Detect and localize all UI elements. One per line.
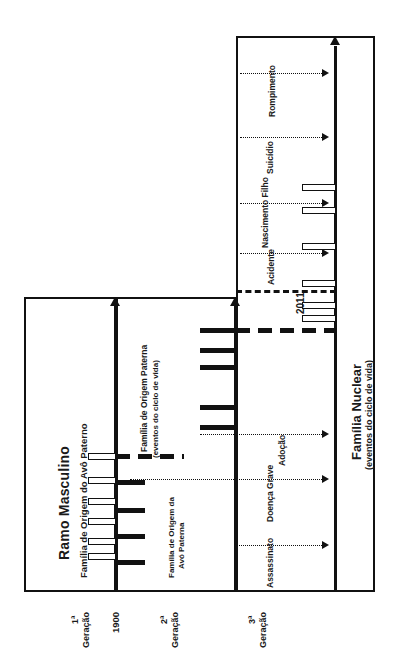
event-tick — [302, 207, 336, 214]
event-tick — [200, 328, 236, 333]
section-title-familia-origem-avo-paterno: Família de Origem do Avô Paterno — [78, 424, 89, 579]
section-title-familia-nuclear: Família Nuclear — [349, 364, 364, 460]
event-tick — [88, 498, 116, 505]
event-tick-banded — [116, 454, 184, 459]
event-arrow-line — [236, 545, 322, 546]
section-sub-familia-nuclear: (eventos do ciclo de vida) — [364, 360, 374, 470]
year-marker-line-2011 — [236, 290, 336, 293]
event-arrow-line — [200, 434, 322, 435]
timeline-spine-1900 — [114, 305, 117, 592]
event-tick — [116, 534, 145, 539]
event-tick — [116, 480, 145, 485]
event-arrow-head — [322, 541, 329, 549]
event-tick — [302, 280, 336, 287]
event-label-assassinato: Assassinato — [265, 538, 275, 588]
event-tick — [88, 538, 116, 545]
axis-label-gen2-line1: 2ª — [159, 616, 169, 624]
event-arrow-head — [322, 133, 329, 141]
event-arrow-line — [130, 479, 322, 480]
event-arrow-line — [240, 253, 322, 254]
event-tick — [200, 348, 236, 353]
event-tick — [302, 302, 336, 309]
event-tick — [88, 553, 116, 560]
event-arrow-line — [240, 203, 322, 204]
section-title-familia-origem-paterna: Família de Origem Paterna — [139, 345, 149, 452]
event-label-rompimento: Rompimento — [267, 65, 277, 117]
event-tick — [88, 518, 116, 525]
section-frame-familia-origem-paterna — [116, 297, 236, 592]
event-arrow-line — [240, 137, 322, 138]
event-arrow-head — [322, 69, 329, 77]
timeline-arrow-1900 — [110, 297, 120, 306]
event-label-doenca-grave: Doença Grave — [265, 465, 275, 522]
axis-label-gen2-line2: Geração — [170, 612, 180, 648]
event-label-suicidio: Suicídio — [265, 141, 275, 174]
axis-label-gen3-line1: 3ª — [247, 616, 257, 624]
axis-label-1900: 1900 — [110, 612, 121, 633]
event-tick — [200, 405, 236, 410]
event-arrow-head — [322, 475, 329, 483]
section-title-ramo-masculino: Ramo Masculino — [56, 446, 72, 560]
event-tick — [116, 560, 145, 565]
event-tick — [302, 243, 336, 250]
axis-label-gen3-line2: Geração — [258, 612, 268, 648]
axis-label-gen1-line1: 1ª — [70, 616, 80, 624]
event-label-nascimento-filho-line1: Nascimento Filho — [260, 177, 270, 248]
event-tick — [88, 477, 116, 484]
event-tick — [200, 365, 236, 370]
section-sub-familia-origem-avo-paterna: Avó Paterna — [177, 523, 186, 569]
event-tick — [116, 508, 145, 513]
event-tick — [302, 184, 336, 191]
event-label-adocao: Adoção — [277, 435, 287, 466]
section-frame-familia-nuclear — [236, 36, 375, 592]
timeline-arrow-gen2 — [230, 297, 240, 306]
event-label-acidente: Acidente — [266, 249, 276, 285]
event-arrow-head — [322, 249, 329, 257]
section-sub-familia-origem-paterna: (eventos do ciclo de vida) — [151, 360, 160, 458]
event-tick-banded — [236, 328, 336, 333]
event-arrow-head — [322, 430, 329, 438]
timeline-arrow-gen3 — [330, 36, 340, 45]
event-tick — [88, 453, 116, 460]
genogram-diagram: Ramo Masculino Família de Origem do Avô … — [0, 0, 410, 658]
axis-label-gen1-line2: Geração — [81, 612, 91, 648]
event-arrow-head — [322, 199, 329, 207]
event-tick — [200, 425, 236, 430]
year-label-2011: 2011 — [295, 292, 306, 314]
section-title-familia-origem-avo-paterna: Família de Origem da — [167, 497, 176, 578]
event-tick — [302, 315, 336, 322]
event-arrow-line — [240, 73, 322, 74]
